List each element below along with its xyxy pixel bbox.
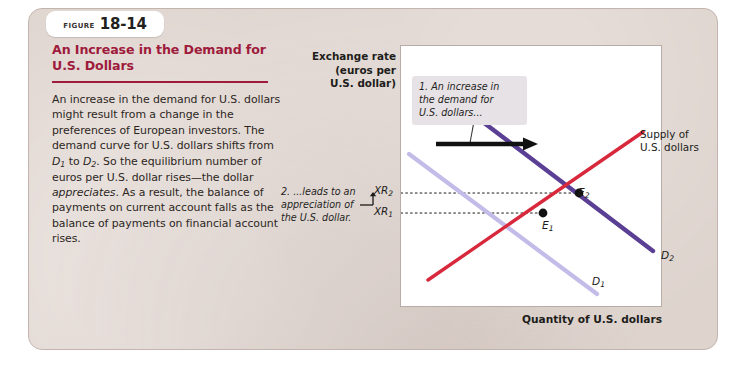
equilibrium-label-e2: E2 (578, 186, 590, 200)
y-axis-title-line-3: U.S. dollar) (300, 77, 396, 91)
curve-d2 (467, 110, 653, 251)
e2-subscript: 2 (585, 191, 590, 200)
equilibrium-label-e1: E1 (542, 219, 554, 233)
figure-text-column: An Increase in the Demand for U.S. Dolla… (52, 42, 288, 247)
callout-one-line-2: the demand for (419, 94, 521, 107)
xr2-subscript: 2 (388, 189, 393, 198)
figure-tab-word: Figure (63, 18, 94, 30)
demand-shift-arrow (436, 138, 538, 151)
d2-letter: D (661, 249, 669, 261)
title-divider (52, 81, 268, 83)
y-axis-title: Exchange rate (euros per U.S. dollar) (300, 50, 396, 91)
annotation-callout-one: 1. An increase in the demand for U.S. do… (412, 76, 527, 125)
caption-to: to (65, 155, 83, 168)
supply-label-line-2: U.S. dollars (640, 141, 718, 154)
callout-one-line-1: 1. An increase in (419, 81, 521, 94)
d1-letter: D (592, 275, 600, 287)
e1-letter: E (542, 219, 549, 231)
figure-caption-body: An increase in the demand for U.S. dolla… (52, 92, 288, 247)
e2-letter: E (578, 186, 585, 198)
figure-title: An Increase in the Demand for U.S. Dolla… (52, 42, 288, 74)
figure-tab-number: 18-14 (100, 15, 147, 33)
caption-emphasis: appreciates (52, 186, 115, 199)
curve-label-d1: D1 (592, 275, 605, 289)
curve-supply (428, 132, 643, 280)
e1-subscript: 1 (549, 224, 554, 233)
curve-label-d2: D2 (661, 249, 674, 263)
x-axis-title: Quantity of U.S. dollars (470, 313, 662, 325)
supply-label-line-1: Supply of (640, 128, 718, 141)
curve-label-supply: Supply of U.S. dollars (640, 128, 718, 155)
caption-part-1: An increase in the demand for U.S. dolla… (52, 93, 280, 152)
appreciation-arrow (358, 192, 378, 214)
callout-one-line-3: U.S. dollars... (419, 107, 521, 120)
y-axis-title-line-2: (euros per (300, 64, 396, 78)
d1-subscript: 1 (600, 280, 605, 289)
d2-subscript: 2 (669, 254, 674, 263)
xr1-subscript: 1 (388, 210, 393, 219)
equilibrium-point-e1 (539, 209, 548, 218)
figure-number-tab: Figure 18-14 (46, 11, 164, 37)
y-axis-title-line-1: Exchange rate (300, 50, 396, 64)
